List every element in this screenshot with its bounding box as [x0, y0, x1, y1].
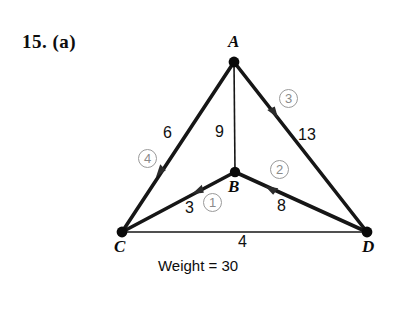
vertex-label-a: A — [228, 33, 239, 50]
vertex-label-b: B — [228, 178, 239, 195]
edge-weight-ad: 13 — [298, 127, 316, 143]
vertex-B-dot — [230, 167, 240, 177]
edge-weight-ab: 9 — [215, 124, 224, 140]
vertex-A-dot — [229, 57, 240, 68]
selection-order-marker-1: 1 — [203, 193, 222, 212]
diagram-canvas: 15. (a) A B C D 6 9 13 3 8 4 1 2 3 4 — [0, 0, 395, 312]
edge-weight-cb: 3 — [185, 200, 194, 216]
vertex-label-c: C — [114, 238, 125, 255]
selection-order-marker-2: 2 — [270, 160, 289, 179]
edge-weight-ca: 6 — [163, 125, 172, 141]
edge-weight-bd: 8 — [277, 198, 286, 214]
selection-order-marker-4: 4 — [138, 149, 157, 168]
edge-weight-cd: 4 — [238, 234, 247, 250]
vertex-label-d: D — [362, 238, 374, 255]
vertex-C-dot — [117, 227, 128, 238]
edge-A-D — [234, 62, 367, 232]
vertex-D-dot — [362, 227, 373, 238]
total-weight-caption: Weight = 30 — [158, 258, 238, 273]
selection-order-marker-3: 3 — [279, 89, 298, 108]
edge-A-B — [234, 62, 235, 172]
edge-B-D — [235, 172, 367, 232]
